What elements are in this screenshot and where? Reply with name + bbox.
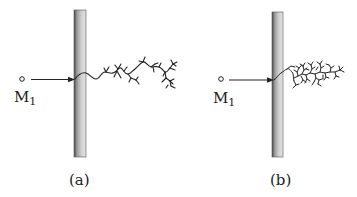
branching-tree <box>274 61 344 88</box>
wall <box>272 12 283 157</box>
source-point-icon <box>20 77 25 82</box>
arrow-icon <box>31 77 75 82</box>
panel-b-drawing <box>180 0 357 197</box>
source-label-text: M <box>213 89 228 107</box>
caption-b: (b) <box>270 173 291 188</box>
source-point-icon <box>219 77 224 82</box>
source-label: M1 <box>213 91 235 108</box>
branching-tree <box>75 57 177 88</box>
wall <box>74 10 86 157</box>
panel-b: M1 (b) <box>180 0 357 197</box>
panel-a: M1 (a) <box>0 0 180 197</box>
source-label-subscript: 1 <box>29 95 36 108</box>
source-label-text: M <box>14 88 29 106</box>
arrow-icon <box>229 77 274 82</box>
source-label-subscript: 1 <box>228 96 235 109</box>
caption-a: (a) <box>69 173 90 188</box>
source-label: M1 <box>14 90 36 107</box>
